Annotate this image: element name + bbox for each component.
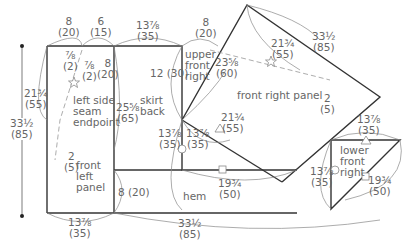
label-front-right-inner: 21¾ (55) (271, 38, 295, 60)
label-lower-top-width: 13⅞ (35) (357, 114, 381, 136)
label-front-right-outer: 33½ (85) (312, 31, 336, 53)
label-diag-lower-a: 21¾ (55) (221, 112, 245, 134)
label-circle-right: 13⅞ (35) (186, 128, 210, 150)
label-hem-height: 8 (20) (118, 187, 150, 198)
label-upper-right-height: 12 (30) (150, 68, 188, 79)
label-total-height: 33½ (85) (10, 118, 34, 140)
label-left-panel-height: 21¾ (55) (24, 88, 48, 110)
label-top-mid-width: 6 (15) (90, 16, 112, 38)
panel-left-side-seam-endpoint: left side seam endpoint (73, 95, 120, 128)
panel-lower-front-right: lower front right (340, 145, 369, 178)
label-back-upper-height: 8 (20) (97, 58, 119, 80)
label-circle-left: 13⅞ (35) (158, 128, 182, 150)
label-top-back-width: 13⅞ (35) (136, 20, 160, 42)
panel-skirt-back: skirt back (140, 95, 165, 117)
label-dart-left: ⅞ (2) (63, 50, 78, 72)
label-top-upper-right-width: 8 (20) (195, 17, 217, 39)
panel-hem: hem (183, 191, 206, 202)
star-icon (69, 77, 80, 88)
label-bottom-left-width: 13⅞ (35) (68, 217, 92, 239)
label-diagonal-upper: 23⅝ (60) (215, 57, 239, 79)
label-dart-right: ⅞ (2) (82, 60, 97, 82)
label-bottom-total-width: 33½ (85) (178, 218, 202, 240)
label-square-width: 19¾ (50) (218, 178, 242, 200)
label-top-left-width: 8 (20) (58, 16, 80, 38)
panel-front-right: front right panel (237, 90, 322, 101)
square-icon (219, 166, 226, 173)
label-lower-left-height: 13⅞ (35) (310, 166, 334, 188)
panel-front-left: front left panel (76, 160, 105, 193)
label-lower-diag: 19¾ (50) (368, 175, 392, 197)
panel-upper-front-right: upper front right (185, 49, 216, 82)
